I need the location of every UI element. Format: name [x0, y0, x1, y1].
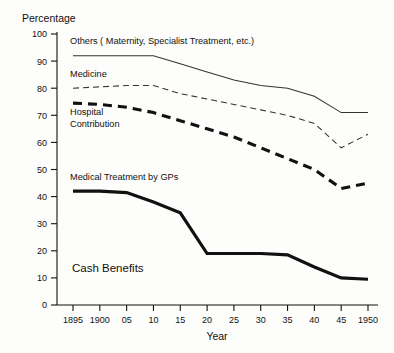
- x-tick-label: 1895: [63, 315, 83, 325]
- x-tick-label: 1900: [90, 315, 110, 325]
- x-tick-label: 25: [229, 315, 239, 325]
- y-tick-label: 20: [37, 246, 47, 256]
- x-tick-label: 15: [175, 315, 185, 325]
- x-tick-label: 40: [309, 315, 319, 325]
- y-tick-label: 80: [37, 84, 47, 94]
- y-tick-label: 60: [37, 138, 47, 148]
- series-label-gps: Medical Treatment by GPs: [70, 172, 179, 182]
- y-axis-ticks: 0102030405060708090100: [32, 29, 57, 310]
- chart-container: Percentage 0102030405060708090100 189519…: [0, 0, 394, 353]
- x-axis-title: Year: [206, 330, 228, 342]
- y-tick-label: 10: [37, 273, 47, 283]
- x-tick-label: 05: [122, 315, 132, 325]
- y-tick-label: 100: [32, 29, 47, 39]
- series-label-hospital-line2: Contribution: [70, 119, 120, 129]
- y-tick-label: 90: [37, 57, 47, 67]
- y-tick-label: 70: [37, 111, 47, 121]
- series-line-others: [73, 56, 368, 113]
- series-label-others: Others ( Maternity, Specialist Treatment…: [70, 36, 254, 46]
- y-axis-title: Percentage: [22, 12, 76, 24]
- y-tick-label: 40: [37, 192, 47, 202]
- x-tick-label: 35: [283, 315, 293, 325]
- y-tick-label: 30: [37, 219, 47, 229]
- percentage-by-year-line-chart: Percentage 0102030405060708090100 189519…: [0, 0, 394, 353]
- x-tick-label: 45: [336, 315, 346, 325]
- series-label-hospital-line1: Hospital: [70, 107, 103, 117]
- x-tick-label: 10: [148, 315, 158, 325]
- y-tick-label: 0: [42, 300, 47, 310]
- x-axis-ticks: 189519000510152025303540451950: [63, 305, 378, 325]
- x-tick-label: 30: [256, 315, 266, 325]
- series-label-medicine: Medicine: [70, 69, 107, 79]
- x-tick-label: 20: [202, 315, 212, 325]
- series-line-medicine: [73, 85, 368, 147]
- x-tick-label: 1950: [358, 315, 378, 325]
- series-label-cash-benefits: Cash Benefits: [72, 262, 144, 274]
- y-tick-label: 50: [37, 165, 47, 175]
